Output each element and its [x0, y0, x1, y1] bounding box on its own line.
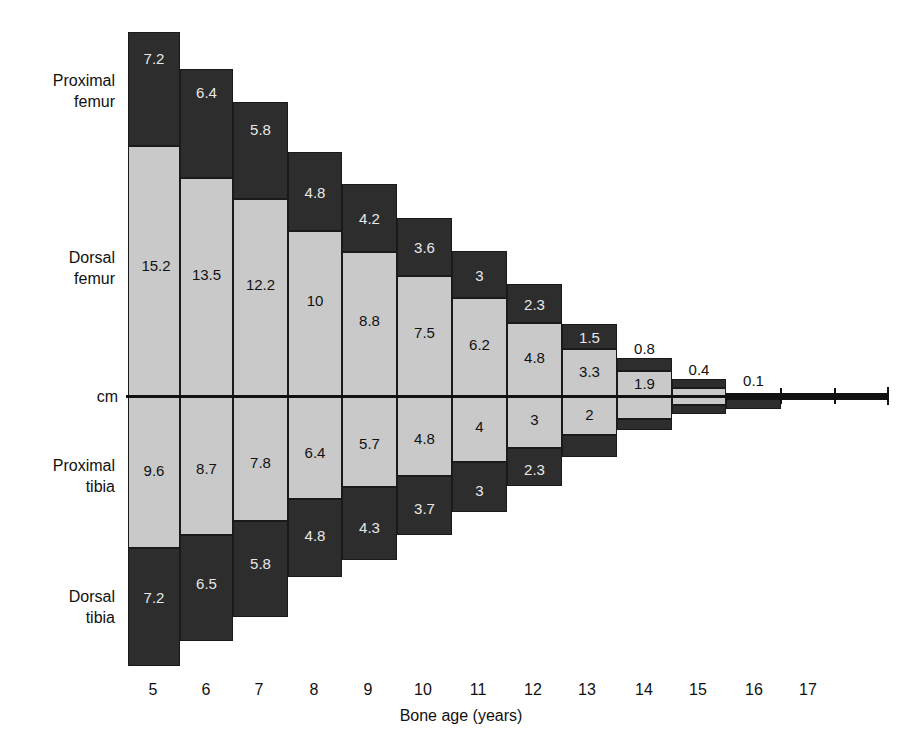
value-dorsal-femur: 12.2 [246, 276, 275, 293]
x-tick-label: 17 [799, 681, 817, 699]
bar-proximal-tibia [617, 396, 672, 419]
bar-dorsal-femur [288, 231, 342, 396]
value-dorsal-femur: 3.3 [579, 363, 600, 380]
value-proximal-tibia: 4.8 [414, 429, 435, 446]
value-dorsal-femur: 1.9 [634, 374, 655, 391]
value-proximal-femur: 5.8 [250, 121, 271, 138]
value-proximal-tibia: 2 [585, 405, 593, 422]
value-proximal-femur: 4.8 [305, 183, 326, 200]
x-tick-label: 7 [255, 681, 264, 699]
x-tick-label: 6 [202, 681, 211, 699]
bar-proximal-femur [672, 379, 726, 388]
x-tick-label: 13 [578, 681, 596, 699]
value-dorsal-tibia: 3.7 [414, 500, 435, 517]
value-proximal-femur: 3 [475, 266, 483, 283]
tick-end [887, 387, 889, 405]
value-proximal-tibia: 3 [530, 411, 538, 428]
value-dorsal-tibia: 5.8 [250, 555, 271, 572]
bar-dorsal-tibia [562, 435, 617, 457]
x-tick-label: 9 [364, 681, 373, 699]
axis-extension-thick [726, 393, 888, 400]
value-dorsal-tibia: 4.8 [305, 527, 326, 544]
bar-dorsal-tibia [672, 405, 726, 414]
bar-dorsal-tibia [617, 419, 672, 430]
value-proximal-femur: 2.3 [524, 295, 545, 312]
row-label-proximal-femur: Proximal femur [5, 70, 115, 112]
value-proximal-femur: 0.8 [634, 340, 655, 357]
bar-dorsal-tibia [128, 548, 180, 666]
bar-proximal-femur [617, 358, 672, 371]
value-dorsal-tibia: 2.3 [524, 460, 545, 477]
x-tick-label: 10 [414, 681, 432, 699]
x-tick-label: 8 [310, 681, 319, 699]
value-proximal-tibia: 9.6 [144, 462, 165, 479]
value-dorsal-tibia: 7.2 [144, 589, 165, 606]
bar-dorsal-femur [233, 199, 288, 396]
value-dorsal-femur: 13.5 [192, 266, 221, 283]
bar-proximal-femur [233, 102, 288, 199]
value-proximal-femur: 6.4 [196, 84, 217, 101]
value-dorsal-femur: 6.2 [469, 336, 490, 353]
value-proximal-femur: 4.2 [359, 210, 380, 227]
x-tick-label: 11 [470, 681, 487, 699]
value-dorsal-tibia: 4.3 [359, 519, 380, 536]
value-dorsal-femur: 8.8 [359, 311, 380, 328]
value-dorsal-femur: 10 [307, 292, 324, 309]
x-tick-label: 15 [689, 681, 707, 699]
value-dorsal-tibia: 3 [475, 481, 483, 498]
x-tick-label: 16 [745, 681, 763, 699]
row-label-dorsal-femur: Dorsal femur [5, 247, 115, 289]
row-label-dorsal-tibia: Dorsal tibia [5, 586, 115, 628]
value-proximal-tibia: 4 [475, 417, 483, 434]
value-proximal-femur: 1.5 [579, 328, 600, 345]
bar-dorsal-femur [180, 178, 233, 396]
value-proximal-femur-16: 0.1 [743, 372, 764, 389]
value-dorsal-femur: 7.5 [414, 324, 435, 341]
row-label-proximal-tibia: Proximal tibia [5, 455, 115, 497]
value-proximal-tibia: 6.4 [305, 444, 326, 461]
value-proximal-tibia: 5.7 [359, 435, 380, 452]
growth-chart: Proximal femur Dorsal femur cm Proximal … [0, 0, 906, 730]
value-proximal-femur: 0.4 [689, 361, 710, 378]
value-proximal-femur: 7.2 [144, 50, 165, 67]
value-dorsal-femur: 15.2 [141, 257, 170, 274]
x-tick-label: 5 [149, 681, 158, 699]
tick-16 [780, 388, 782, 404]
value-proximal-tibia: 8.7 [196, 460, 217, 477]
tick-17 [834, 388, 836, 404]
x-tick-label: 14 [635, 681, 653, 699]
value-proximal-tibia: 7.8 [250, 454, 271, 471]
value-proximal-femur: 3.6 [414, 239, 435, 256]
value-dorsal-femur: 4.8 [524, 349, 545, 366]
value-dorsal-tibia: 6.5 [196, 575, 217, 592]
axis-unit-label: cm [10, 386, 118, 407]
x-tick-label: 12 [524, 681, 542, 699]
x-axis-title: Bone age (years) [400, 707, 523, 725]
